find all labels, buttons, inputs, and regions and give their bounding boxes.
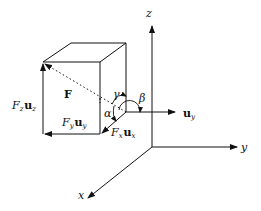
fy-component-label: Fyuy (61, 116, 88, 130)
labels: z y x F Fzuz Fyuy Fxux uy γ α β (11, 7, 248, 202)
x-axis-label: x (78, 189, 85, 202)
force-diagram: z y x F Fzuz Fyuy Fxux uy γ α β (0, 0, 261, 211)
alpha-label: α (104, 107, 112, 120)
x-axis (88, 147, 152, 198)
z-axis-label: z (145, 7, 152, 20)
fx-component-label: Fxux (110, 126, 136, 140)
gamma-label: γ (113, 88, 120, 101)
beta-label: β (138, 92, 145, 105)
uy-unit-label: uy (183, 107, 196, 121)
f-vector-label: F (64, 88, 72, 101)
y-axis-label: y (240, 141, 248, 154)
alpha-arc (113, 106, 116, 121)
fz-component-label: Fzuz (11, 99, 36, 113)
